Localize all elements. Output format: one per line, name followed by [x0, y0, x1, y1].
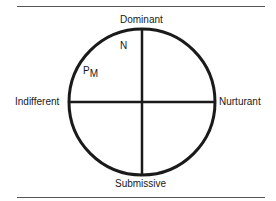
point-pm: PM — [83, 65, 98, 76]
point-pm-subscript: M — [90, 68, 98, 79]
label-indifferent: Indifferent — [15, 96, 59, 107]
point-pm-main: P — [83, 65, 90, 76]
label-nurturant: Nurturant — [219, 96, 261, 107]
label-submissive: Submissive — [115, 178, 166, 189]
label-dominant: Dominant — [120, 14, 163, 25]
point-n: N — [120, 40, 127, 51]
